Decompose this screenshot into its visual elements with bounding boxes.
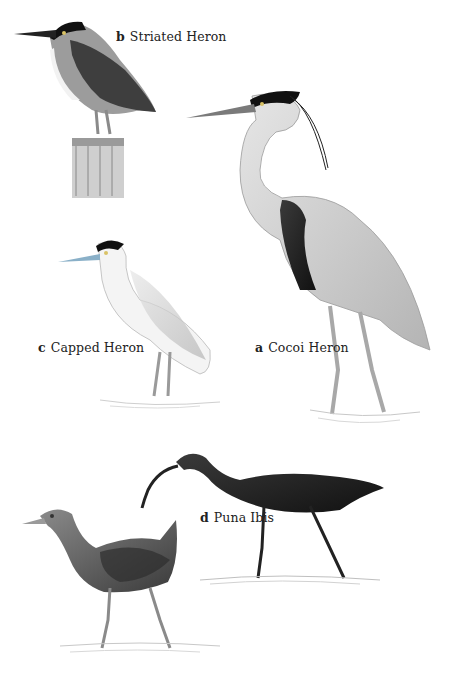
field-guide-plate: bStriated Heron cCapped Heron aCocoi Her…: [0, 0, 450, 676]
label-name: Puna Ibis: [214, 510, 274, 525]
label-capped-heron: cCapped Heron: [38, 340, 144, 355]
label-cocoi-heron: aCocoi Heron: [255, 340, 349, 355]
label-name: Cocoi Heron: [268, 340, 349, 355]
label-letter: b: [116, 29, 125, 44]
label-letter: d: [200, 510, 209, 525]
label-striated-heron: bStriated Heron: [116, 29, 227, 44]
striated-heron-illustration: [14, 22, 156, 198]
label-puna-ibis: dPuna Ibis: [200, 510, 274, 525]
label-letter: c: [38, 340, 46, 355]
capped-heron-illustration: [58, 240, 220, 408]
cocoi-heron-illustration: [186, 91, 430, 423]
bird-illustrations: [0, 0, 450, 676]
label-name: Capped Heron: [51, 340, 144, 355]
label-letter: a: [255, 340, 263, 355]
label-name: Striated Heron: [130, 29, 227, 44]
rail-illustration: [22, 509, 220, 652]
